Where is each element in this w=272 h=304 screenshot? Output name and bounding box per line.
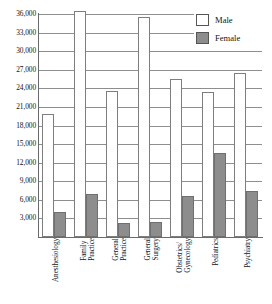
x-axis-label-line: Practice bbox=[120, 238, 128, 261]
y-axis-tick-label: 21,000 bbox=[0, 103, 36, 111]
bar-male bbox=[234, 73, 246, 237]
y-axis-tick-label: 12,000 bbox=[0, 159, 36, 167]
bar-female bbox=[182, 196, 194, 238]
bar-female bbox=[150, 222, 162, 237]
bar-chart: 3,0006,0009,00012,00015,00018,00021,0002… bbox=[0, 0, 272, 304]
x-axis-category-labels: AnesthesiologyFamilyPracticeGeneralPract… bbox=[38, 238, 262, 304]
x-axis-category-label: Obstetrics/Gynecology bbox=[176, 238, 193, 273]
x-axis-label-line: Psychiatry bbox=[244, 238, 252, 268]
y-axis-tick-label: 33,000 bbox=[0, 29, 36, 37]
legend-entry-female: Female bbox=[196, 29, 262, 47]
x-axis-label-line: Family bbox=[80, 238, 88, 261]
y-axis-tick-label: 3,000 bbox=[0, 214, 36, 222]
y-axis-tick-labels: 3,0006,0009,00012,00015,00018,00021,0002… bbox=[0, 14, 36, 237]
x-axis-label-line: Anesthesiology bbox=[52, 238, 60, 282]
x-axis-label-line: Surgery bbox=[152, 238, 160, 260]
y-axis-tick-label: 27,000 bbox=[0, 66, 36, 74]
y-axis-tick-label: 9,000 bbox=[0, 177, 36, 185]
legend-entry-male: Male bbox=[196, 11, 262, 29]
y-axis-tick-label: 18,000 bbox=[0, 122, 36, 130]
bar-female bbox=[54, 212, 66, 237]
bar-male bbox=[170, 79, 182, 237]
legend-label-female: Female bbox=[215, 34, 240, 43]
legend-swatch-female-icon bbox=[196, 32, 209, 44]
bar-male bbox=[202, 92, 214, 237]
bar-group bbox=[138, 14, 162, 237]
y-axis-line bbox=[38, 13, 39, 238]
x-axis-label-line: Obstetrics/ bbox=[176, 238, 184, 273]
bar-group bbox=[106, 14, 130, 237]
bar-male bbox=[138, 17, 150, 237]
x-axis-category-label: Pediatrics bbox=[212, 238, 220, 266]
bar-male bbox=[42, 114, 54, 237]
x-axis-label-line: Gynecology bbox=[184, 238, 192, 273]
y-axis-tick-label: 15,000 bbox=[0, 140, 36, 148]
x-axis-category-label: Psychiatry bbox=[244, 238, 252, 268]
x-axis-label-line: General bbox=[144, 238, 152, 260]
bar-group bbox=[74, 14, 98, 237]
x-axis-label-line: General bbox=[112, 238, 120, 261]
y-axis-tick-label: 36,000 bbox=[0, 10, 36, 18]
bar-female bbox=[86, 194, 98, 237]
x-axis-category-label: FamilyPractice bbox=[80, 238, 97, 261]
x-axis-category-label: GeneralSurgery bbox=[144, 238, 161, 260]
y-axis-tick-label: 6,000 bbox=[0, 196, 36, 204]
chart-legend: Male Female bbox=[196, 11, 262, 47]
bar-female bbox=[246, 191, 258, 237]
bar-male bbox=[106, 91, 118, 237]
x-axis-label-line: Practice bbox=[88, 238, 96, 261]
legend-label-male: Male bbox=[215, 16, 233, 25]
y-axis-tick-label: 30,000 bbox=[0, 47, 36, 55]
x-axis-category-label: Anesthesiology bbox=[52, 238, 60, 282]
y-axis-tick-label: 24,000 bbox=[0, 84, 36, 92]
bar-female bbox=[214, 153, 226, 237]
bar-group bbox=[170, 14, 194, 237]
bar-male bbox=[74, 11, 86, 237]
bar-group bbox=[42, 14, 66, 237]
x-axis-category-label: GeneralPractice bbox=[112, 238, 129, 261]
x-axis-label-line: Pediatrics bbox=[212, 238, 220, 266]
legend-swatch-male-icon bbox=[196, 14, 209, 26]
bar-female bbox=[118, 223, 130, 237]
